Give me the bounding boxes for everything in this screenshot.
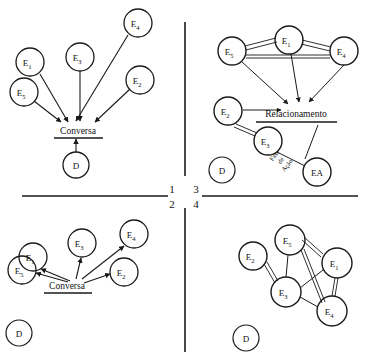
quadrant-number-3: 3 <box>193 183 199 195</box>
q3-node-e5-label: E5 <box>225 47 234 59</box>
q1-node-e5: E5 <box>10 78 38 106</box>
quadrant-number-4: 4 <box>193 198 199 210</box>
q1-arrow-e2-conversa <box>95 89 130 122</box>
q2-node-e1: E1 <box>19 243 47 271</box>
quadrant-number-2: 2 <box>169 198 175 210</box>
q3-node-e4: E4 <box>330 37 358 65</box>
q1-arrow-e1-conversa <box>40 74 68 122</box>
q4-node-e1: E1 <box>322 248 352 278</box>
q4-single-links <box>286 255 323 307</box>
quadrant-4-group: E2 E5 E1 E3 E4 D <box>233 225 352 351</box>
quadrant-numbers: 1 2 3 4 <box>169 183 199 210</box>
q3-link-e2-e3-b <box>234 127 255 136</box>
q4-node-d: D <box>233 325 259 351</box>
q2-arrow-conversa-e3 <box>76 258 81 279</box>
q1-node-e4: E4 <box>124 9 152 37</box>
q3-node-e1: E1 <box>275 26 303 54</box>
q2-node-e4-label: E4 <box>127 230 137 242</box>
q1-node-d-label: D <box>73 161 80 171</box>
q3-node-e3: E3 <box>254 127 282 155</box>
q4-link-e5-e3 <box>286 255 288 277</box>
q4-node-e1-label: E1 <box>330 259 339 271</box>
q3-node-d: D <box>209 157 235 183</box>
q1-node-e2: E2 <box>126 66 154 94</box>
q2-arrow-conversa-e2 <box>84 274 110 283</box>
quadrant-1-group: Conversa E1 E3 E4 E5 E2 D <box>10 9 154 178</box>
q4-link-e5-e4-b <box>304 249 325 302</box>
q4-node-e5: E5 <box>275 225 305 255</box>
q4-link-e1-e4-b <box>335 278 338 296</box>
q1-node-e1: E1 <box>16 48 44 76</box>
q2-node-e2: E2 <box>110 258 138 286</box>
q4-node-e2-label: E2 <box>246 252 255 264</box>
q2-concept-conversa: Conversa <box>49 281 86 291</box>
q2-arrow-conversa-e1 <box>41 269 70 281</box>
q4-node-e3-label: E3 <box>279 288 288 300</box>
q3-link-e5-e1-b <box>246 42 277 50</box>
q4-node-e4: E4 <box>317 296 347 326</box>
q2-node-e5-label: E5 <box>15 266 24 278</box>
divider-lines <box>22 22 358 352</box>
q1-node-e2-label: E2 <box>133 76 142 88</box>
q1-node-d: D <box>63 152 89 178</box>
q3-node-e2-label: E2 <box>221 107 230 119</box>
q3-node-e4-label: E4 <box>337 47 347 59</box>
q2-node-e3: E3 <box>68 229 96 257</box>
quadrant-3-group: Relacionamento Fase de Ação E5 E1 E4 E2 … <box>209 26 358 186</box>
q3-node-e5: E5 <box>218 37 246 65</box>
q3-node-e2: E2 <box>214 97 242 125</box>
q4-node-e3: E3 <box>271 277 301 307</box>
q4-link-e3-e4 <box>300 297 318 307</box>
q2-node-e2-label: E2 <box>117 268 126 280</box>
q3-phase-label: Fase de Ação <box>267 148 294 173</box>
q1-node-e1-label: E1 <box>23 58 32 70</box>
q3-link-e1-e4-a <box>302 40 331 47</box>
q4-node-e2: E2 <box>239 242 267 270</box>
q1-node-e3-label: E3 <box>73 53 82 65</box>
q4-link-e3-e1 <box>300 270 323 288</box>
q3-link-e2-e3-a <box>236 124 257 133</box>
q3-node-d-label: D <box>219 166 226 176</box>
q3-link-e5-e1-a <box>245 38 276 46</box>
q2-node-e3-label: E3 <box>75 239 84 251</box>
q3-concept-relacionamento: Relacionamento <box>265 109 327 119</box>
quadrant-number-1: 1 <box>169 183 175 195</box>
q4-link-e1-e4-a <box>332 278 335 296</box>
q3-node-ea: EA <box>303 158 331 186</box>
q3-arrow-e5-relacionamento <box>242 62 288 104</box>
q4-node-d-label: D <box>243 334 250 344</box>
q4-link-e5-e4-a <box>301 250 322 303</box>
q2-node-d-label: D <box>16 329 23 339</box>
q2-node-d: D <box>6 320 32 346</box>
q4-link-e5-e1-a <box>304 237 323 254</box>
quadrant-2-group: Conversa E1 E3 E4 E5 E2 D <box>6 220 148 346</box>
q3-arrow-e4-relacionamento <box>309 65 344 102</box>
q4-node-e4-label: E4 <box>325 307 335 319</box>
q1-node-e5-label: E5 <box>17 88 26 100</box>
q1-arrow-e4-conversa <box>76 35 128 121</box>
q3-arrow-e1-relacionamento <box>291 54 299 102</box>
q3-link-ea-relacionamento <box>305 125 318 159</box>
q3-link-e1-e4-b <box>301 44 330 51</box>
q1-arrow-e5-conversa <box>34 101 61 122</box>
diagram-canvas: 1 2 3 4 Conversa E1 E3 E4 E5 <box>0 0 375 363</box>
q1-node-e4-label: E4 <box>131 19 141 31</box>
q1-node-e3: E3 <box>66 43 94 71</box>
q4-node-e5-label: E5 <box>283 236 292 248</box>
q2-node-e5: E5 <box>8 256 36 284</box>
q2-node-e4: E4 <box>120 220 148 248</box>
q1-concept-conversa: Conversa <box>60 126 97 136</box>
q3-node-e3-label: E3 <box>261 137 270 149</box>
q3-node-ea-label: EA <box>311 168 323 178</box>
hand-drawn-quadrant-diagram: 1 2 3 4 Conversa E1 E3 E4 E5 <box>0 0 375 363</box>
q3-node-e1-label: E1 <box>282 36 291 48</box>
